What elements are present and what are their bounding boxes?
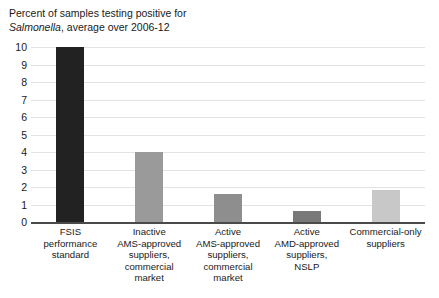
chart-title-species: Salmonella bbox=[9, 21, 61, 33]
y-tick-label: 3 bbox=[0, 165, 27, 175]
y-tick-label: 0 bbox=[0, 217, 27, 227]
y-tick-label: 10 bbox=[0, 42, 27, 52]
bar[interactable] bbox=[135, 152, 163, 222]
y-tick-label: 8 bbox=[0, 77, 27, 87]
bar[interactable] bbox=[293, 211, 321, 222]
y-tick-label: 2 bbox=[0, 182, 27, 192]
y-tick-label: 1 bbox=[0, 200, 27, 210]
x-category-label: Active AMS-approved suppliers, commercia… bbox=[183, 226, 274, 284]
y-tick-label: 4 bbox=[0, 147, 27, 157]
x-category-label: Inactive AMS-approved suppliers, commerc… bbox=[104, 226, 195, 284]
y-tick-label: 9 bbox=[0, 60, 27, 70]
x-category-label: FSIS performance standard bbox=[25, 226, 116, 261]
x-axis-line bbox=[31, 222, 425, 224]
y-tick-label: 7 bbox=[0, 95, 27, 105]
chart-title-line1: Percent of samples testing positive for bbox=[9, 7, 186, 19]
y-axis-labels: 109876543210 bbox=[0, 47, 27, 222]
bar-chart-figure: Percent of samples testing positive forS… bbox=[0, 0, 439, 298]
x-category-label: Commercial-only suppliers bbox=[340, 226, 431, 249]
bar[interactable] bbox=[56, 47, 84, 222]
x-category-label: Active AMD-approved suppliers, NSLP bbox=[261, 226, 352, 272]
y-tick-label: 5 bbox=[0, 130, 27, 140]
chart-title-line2-rest: , average over 2006-12 bbox=[61, 21, 170, 33]
x-axis-labels: FSIS performance standardInactive AMS-ap… bbox=[31, 226, 425, 296]
chart-title: Percent of samples testing positive forS… bbox=[9, 7, 309, 34]
bar[interactable] bbox=[214, 194, 242, 222]
bars-layer bbox=[31, 47, 425, 222]
y-tick-label: 6 bbox=[0, 112, 27, 122]
bar[interactable] bbox=[372, 190, 400, 222]
